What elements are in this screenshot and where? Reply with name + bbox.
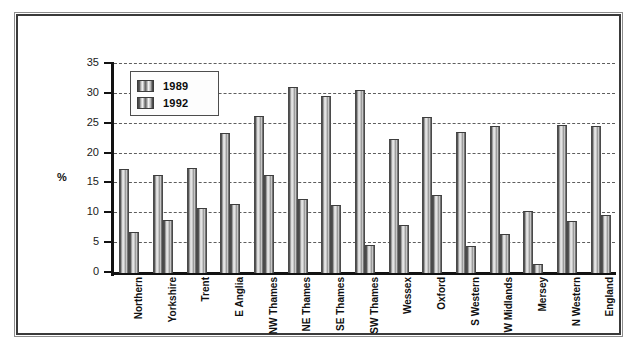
x-axis-label: S Western [470,277,481,347]
x-axis-label: NW Thames [268,277,279,347]
bar [422,117,432,273]
bar [321,96,331,273]
bar [432,195,442,273]
bar [230,204,240,273]
y-tick-label-20: 20 [73,147,99,158]
y-tick-label-15: 15 [73,176,99,187]
x-axis-label: Wessex [402,277,413,347]
legend-swatch-1989 [137,80,154,92]
bar [264,175,274,273]
y-tick-label-25: 25 [73,117,99,128]
x-axis-label: N Western [571,277,582,347]
x-axis-label: Northern [133,277,144,347]
x-axis-label: Yorkshire [167,277,178,347]
x-axis-label: NE Thames [301,277,312,347]
bar [355,90,365,273]
legend-item-1989: 1989 [137,77,212,94]
bar [567,221,577,273]
chart-legend: 1989 1992 [130,71,219,116]
bar [523,211,533,273]
bar [197,208,207,273]
bar [399,225,409,273]
bar [456,132,466,273]
y-axis-title: % [57,171,67,183]
bar [331,205,341,273]
legend-label-1992: 1992 [163,97,188,109]
bar [500,234,510,273]
y-tick-label-10: 10 [73,206,99,217]
bar [365,245,375,273]
bar [129,232,139,273]
legend-label-1989: 1989 [163,80,188,92]
legend-item-1992: 1992 [137,94,212,111]
x-axis-label: Oxford [436,277,447,347]
bar [466,246,476,273]
y-tick-label-30: 30 [73,87,99,98]
bar [153,175,163,273]
x-axis-label: SW Thames [369,277,380,347]
x-axis-label: SE Thames [335,277,346,347]
x-axis-label: Trent [200,277,211,347]
x-axis-category-labels: NorthernYorkshireTrentE AngliaNW ThamesN… [111,277,616,347]
bar [557,125,567,273]
bar [490,126,500,273]
bar [288,87,298,273]
bar [601,215,611,273]
bar [591,126,601,273]
y-tick-label-5: 5 [73,236,99,247]
plot-area: 05101520253035 % 1989 1992 NorthernYorks… [15,13,622,336]
bar [254,116,264,273]
bar [533,264,543,273]
bar [389,139,399,273]
bar [220,133,230,273]
legend-swatch-1992 [137,97,154,109]
y-tick-label-35: 35 [73,57,99,68]
bar [298,199,308,273]
x-axis-label: England [604,277,615,347]
chart-figure: 05101520253035 % 1989 1992 NorthernYorks… [14,12,623,337]
x-axis-label: E Anglia [234,277,245,347]
bar [119,169,129,273]
x-axis-label: W Midlands [503,277,514,347]
y-tick-label-0: 0 [73,266,99,277]
x-axis-label: Mersey [537,277,548,347]
bar [187,168,197,274]
bar [163,220,173,273]
